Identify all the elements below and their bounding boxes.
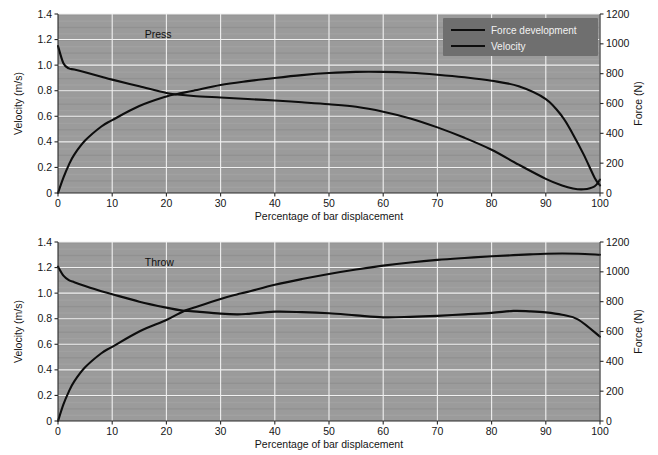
- y-tick-label: 1.4: [37, 8, 52, 20]
- y-tick-label: 1.4: [37, 236, 52, 248]
- x-tick-label: 70: [432, 197, 444, 209]
- y-tick-label: 0: [46, 415, 52, 427]
- x-tick-label: 40: [269, 197, 281, 209]
- x-tick-label: 50: [323, 425, 335, 437]
- x-tick-label: 70: [432, 425, 444, 437]
- x-tick-label: 90: [540, 425, 552, 437]
- x-tick-label: 20: [161, 425, 173, 437]
- y2-tick-label: 200: [606, 157, 624, 169]
- y-tick-label: 0.4: [37, 363, 52, 375]
- y-tick-label: 0.4: [37, 135, 52, 147]
- y2-tick-label: 1000: [606, 37, 630, 49]
- panel-annotation-throw: Throw: [145, 256, 175, 268]
- y-axis-title: Velocity (m/s): [12, 300, 24, 363]
- y-tick-label: 0.6: [37, 110, 52, 122]
- y-tick-label: 1.0: [37, 287, 52, 299]
- y-tick-label: 0: [46, 187, 52, 199]
- y2-tick-label: 1000: [606, 265, 630, 277]
- x-tick-label: 10: [106, 197, 118, 209]
- x-tick-label: 0: [55, 425, 61, 437]
- x-tick-label: 20: [161, 197, 173, 209]
- x-tick-label: 10: [106, 425, 118, 437]
- x-tick-label: 0: [55, 197, 61, 209]
- x-tick-label: 100: [591, 197, 609, 209]
- y2-tick-label: 400: [606, 127, 624, 139]
- throw-chart-svg: 00.20.40.60.81.01.21.4020040060080010001…: [0, 228, 658, 455]
- y2-axis-title: Force (N): [632, 81, 644, 125]
- y-tick-label: 1.2: [37, 33, 52, 45]
- x-axis-title: Percentage of bar displacement: [255, 210, 403, 222]
- y2-tick-label: 1200: [606, 8, 630, 20]
- y-tick-label: 1.0: [37, 59, 52, 71]
- y2-tick-label: 600: [606, 325, 624, 337]
- y-axis-title: Velocity (m/s): [12, 72, 24, 135]
- y-tick-label: 0.6: [37, 338, 52, 350]
- legend-label-0: Force development: [491, 25, 577, 36]
- y-tick-label: 0.8: [37, 312, 52, 324]
- y2-tick-label: 1200: [606, 236, 630, 248]
- y2-axis-title: Force (N): [632, 309, 644, 353]
- dual-panel-chart-figure: 00.20.40.60.81.01.21.4020040060080010001…: [0, 0, 658, 455]
- x-tick-label: 50: [323, 197, 335, 209]
- x-tick-label: 100: [591, 425, 609, 437]
- y-tick-label: 0.2: [37, 161, 52, 173]
- chart-legend: Force developmentVelocity: [443, 18, 598, 56]
- x-tick-label: 30: [215, 425, 227, 437]
- x-tick-label: 60: [377, 425, 389, 437]
- y2-tick-label: 600: [606, 97, 624, 109]
- press-chart-svg: 00.20.40.60.81.01.21.4020040060080010001…: [0, 0, 658, 228]
- y2-tick-label: 800: [606, 67, 624, 79]
- x-tick-label: 80: [486, 425, 498, 437]
- panel-annotation-press: Press: [145, 28, 172, 40]
- y-tick-label: 1.2: [37, 261, 52, 273]
- chart-panel-throw: 00.20.40.60.81.01.21.4020040060080010001…: [0, 228, 658, 455]
- x-tick-label: 40: [269, 425, 281, 437]
- x-tick-label: 60: [377, 197, 389, 209]
- y2-tick-label: 400: [606, 355, 624, 367]
- x-tick-label: 80: [486, 197, 498, 209]
- x-axis-title: Percentage of bar displacement: [255, 438, 403, 450]
- x-tick-label: 90: [540, 197, 552, 209]
- y-tick-label: 0.2: [37, 389, 52, 401]
- chart-panel-press: 00.20.40.60.81.01.21.4020040060080010001…: [0, 0, 658, 228]
- legend-label-1: Velocity: [491, 41, 525, 52]
- x-tick-label: 30: [215, 197, 227, 209]
- y2-tick-label: 800: [606, 295, 624, 307]
- y2-tick-label: 200: [606, 385, 624, 397]
- y-tick-label: 0.8: [37, 84, 52, 96]
